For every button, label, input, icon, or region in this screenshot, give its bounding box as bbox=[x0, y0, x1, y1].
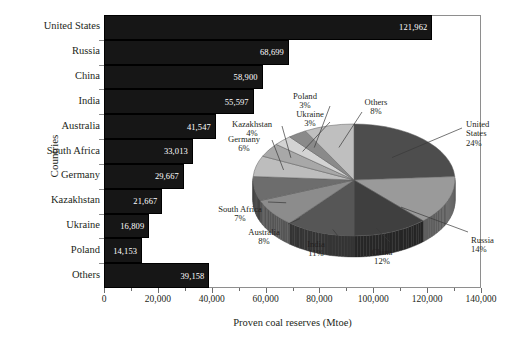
pie-slice-side bbox=[333, 235, 336, 256]
y-axis-category-label: Poland bbox=[4, 244, 100, 255]
pie-slice-side bbox=[285, 221, 287, 243]
pie-slice-side bbox=[265, 206, 266, 228]
x-axis-minor-tick bbox=[346, 288, 347, 291]
bar-value-label: 68,699 bbox=[260, 47, 288, 57]
pie-slice-side bbox=[339, 235, 342, 256]
pie-slice-side bbox=[336, 235, 339, 256]
pie-slice-side bbox=[430, 216, 432, 238]
pie-slice-side bbox=[302, 228, 305, 250]
pie-slice-side bbox=[441, 207, 443, 229]
pie-callout-label: Poland3% bbox=[293, 92, 317, 111]
bar: 33,013 bbox=[104, 139, 193, 164]
pie-callout-label: Ukraine3% bbox=[296, 110, 324, 129]
y-axis-category-label: China bbox=[4, 70, 100, 81]
bar: 16,809 bbox=[104, 214, 149, 239]
bar: 55,597 bbox=[104, 89, 254, 114]
pie-slice-side bbox=[281, 219, 283, 241]
bar: 68,699 bbox=[104, 40, 289, 65]
pie-callout-label: Australia8% bbox=[248, 228, 280, 247]
pie-callout-label: China12% bbox=[372, 248, 393, 267]
pie-slice-side bbox=[439, 209, 441, 231]
pie-slice-side bbox=[263, 205, 264, 227]
bar-value-label: 29,667 bbox=[155, 171, 183, 181]
y-axis-category-label: South Africa bbox=[4, 145, 100, 156]
x-axis-tick bbox=[104, 288, 105, 293]
bar: 21,667 bbox=[104, 189, 162, 214]
bar: 121,962 bbox=[104, 15, 432, 40]
x-axis-tick bbox=[266, 288, 267, 293]
pie-slice-side bbox=[357, 236, 360, 257]
pie-slice-side bbox=[342, 236, 345, 257]
y-axis-category-label: Ukraine bbox=[4, 219, 100, 230]
pie-slice-side bbox=[292, 224, 294, 246]
x-axis-tick bbox=[212, 288, 213, 293]
x-axis-minor-tick bbox=[400, 288, 401, 291]
pie-callout-label: Others8% bbox=[365, 98, 388, 117]
pie-label-percent: 8% bbox=[248, 237, 280, 246]
bar-value-label: 58,900 bbox=[234, 72, 262, 82]
pie-label-percent: 7% bbox=[218, 214, 262, 223]
bar-value-label: 121,962 bbox=[399, 22, 431, 32]
pie-callout-label: Russia14% bbox=[471, 236, 494, 255]
x-axis-minor-tick bbox=[131, 288, 132, 291]
pie-slice-side bbox=[354, 236, 357, 257]
bar-value-label: 14,153 bbox=[113, 246, 141, 256]
bar-value-label: 41,547 bbox=[187, 122, 215, 132]
x-axis-tick bbox=[158, 288, 159, 293]
bar: 41,547 bbox=[104, 114, 216, 139]
pie-slice-side bbox=[299, 227, 302, 249]
x-axis-tick-label: 0 bbox=[102, 294, 107, 304]
pie-label-percent: 24% bbox=[466, 139, 489, 148]
pie-slice-side bbox=[330, 234, 333, 255]
pie-slice-side bbox=[411, 225, 413, 247]
y-axis-category-label: United States bbox=[4, 20, 100, 31]
x-axis-tick bbox=[481, 288, 482, 293]
x-axis-minor-tick bbox=[239, 288, 240, 291]
y-axis-categories: United StatesRussiaChinaIndiaAustraliaSo… bbox=[0, 15, 100, 288]
pie-label-percent: 6% bbox=[228, 144, 260, 153]
x-axis-tick-label: 80,000 bbox=[306, 294, 332, 304]
pie-label-name: UnitedStates bbox=[466, 120, 489, 139]
x-axis-tick-label: 20,000 bbox=[145, 294, 171, 304]
bar-row: 121,962 bbox=[104, 15, 481, 40]
pie-slice-side bbox=[393, 231, 396, 253]
pie-slice-side bbox=[416, 223, 418, 245]
pie-slice-side bbox=[287, 222, 289, 244]
pie-callout-label: South Africa7% bbox=[218, 205, 262, 224]
pie-slice-side bbox=[297, 226, 300, 248]
pie-slice-side bbox=[442, 206, 443, 228]
pie-slice-side bbox=[396, 230, 399, 252]
pie-slice-side bbox=[404, 228, 407, 250]
pie-slice-side bbox=[348, 236, 351, 257]
y-axis-category-label: Others bbox=[4, 269, 100, 280]
pie-label-percent: 4% bbox=[232, 129, 272, 138]
bar-row: 68,699 bbox=[104, 40, 481, 65]
x-axis-tick-label: 40,000 bbox=[199, 294, 225, 304]
pie-slice-side bbox=[436, 211, 438, 233]
bar-value-label: 39,158 bbox=[180, 271, 208, 281]
pie-slice-side bbox=[424, 219, 426, 241]
pie-slice-side bbox=[434, 213, 436, 235]
y-axis-category-label: Australia bbox=[4, 120, 100, 131]
pie-slice-side bbox=[426, 218, 428, 240]
pie-label-percent: 12% bbox=[372, 257, 393, 266]
x-axis-minor-tick bbox=[454, 288, 455, 291]
pie-callout-label: Kazakhstan4% bbox=[232, 120, 272, 139]
pie-label-percent: 3% bbox=[293, 101, 317, 110]
x-axis-tick-label: 120,000 bbox=[412, 294, 443, 304]
y-axis-category-label: India bbox=[4, 95, 100, 106]
x-axis-tick-label: 100,000 bbox=[358, 294, 389, 304]
x-axis-tick bbox=[319, 288, 320, 293]
pie-slice-side bbox=[409, 226, 412, 248]
x-axis-tick-label: 60,000 bbox=[253, 294, 279, 304]
pie-slice-side bbox=[401, 229, 404, 251]
pie-label-percent: 3% bbox=[296, 119, 324, 128]
pie-callout-label: UnitedStates24% bbox=[466, 120, 489, 148]
bar: 39,158 bbox=[104, 263, 209, 288]
x-axis-tick bbox=[373, 288, 374, 293]
bar: 58,900 bbox=[104, 65, 263, 90]
pie-label-percent: 8% bbox=[365, 107, 388, 116]
pie-slice bbox=[354, 124, 455, 180]
pie-slice-side bbox=[438, 210, 440, 232]
pie-slice-side bbox=[290, 223, 292, 245]
